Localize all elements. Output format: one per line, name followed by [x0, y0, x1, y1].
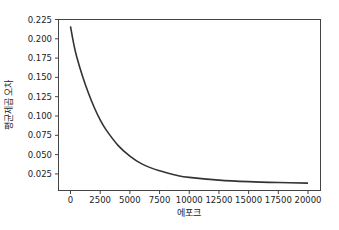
y-tick-label: 0.200: [28, 34, 52, 44]
y-tick-label: 0.075: [28, 130, 52, 140]
y-tick-label: 0.100: [28, 111, 52, 121]
x-axis-label: 에포크: [177, 208, 201, 218]
y-axis-ticks: 0.0250.0500.0750.1000.1250.1500.1750.200…: [28, 15, 59, 179]
x-tick-label: 20000: [294, 195, 321, 205]
x-tick-label: 0: [68, 195, 73, 205]
line-chart: 0.0250.0500.0750.1000.1250.1500.1750.200…: [0, 0, 339, 230]
x-tick-label: 7500: [149, 195, 171, 205]
y-tick-label: 0.225: [28, 15, 52, 25]
y-tick-label: 0.175: [28, 53, 52, 63]
y-tick-label: 0.050: [28, 150, 52, 160]
y-tick-label: 0.125: [28, 92, 52, 102]
y-tick-label: 0.025: [28, 169, 52, 179]
x-tick-label: 2500: [89, 195, 111, 205]
y-tick-label: 0.150: [28, 72, 52, 82]
x-tick-label: 5000: [119, 195, 141, 205]
x-tick-label: 17500: [265, 195, 292, 205]
x-axis-ticks: 02500500075001000012500150001750020000: [68, 191, 322, 206]
x-tick-label: 10000: [176, 195, 203, 205]
plot-frame: [59, 20, 321, 191]
x-tick-label: 12500: [205, 195, 232, 205]
x-tick-label: 15000: [235, 195, 262, 205]
y-axis-label: 평균제곱 오차: [3, 79, 14, 131]
